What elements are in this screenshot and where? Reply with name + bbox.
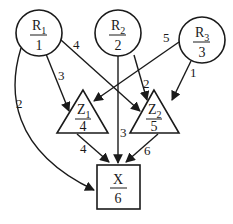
edge-r3-z2 bbox=[172, 61, 191, 100]
edge-label-z2-x: 6 bbox=[144, 143, 151, 158]
node-r3: R3 3 bbox=[179, 17, 225, 63]
node-r3-value: 3 bbox=[199, 45, 206, 60]
edge-label-r3-z1: 5 bbox=[163, 30, 170, 45]
edge-label-r1-x: 2 bbox=[16, 96, 23, 111]
node-r1-value: 1 bbox=[36, 38, 43, 53]
node-r2: R2 2 bbox=[95, 10, 141, 56]
edge-label-r2-z2: 2 bbox=[143, 76, 150, 91]
node-r1: R1 1 bbox=[16, 10, 62, 56]
edge-label-r3-z2: 1 bbox=[190, 65, 197, 80]
edge-z2-x bbox=[126, 134, 158, 162]
node-x: X 6 bbox=[97, 165, 140, 209]
edge-label-r1-z2: 4 bbox=[73, 37, 80, 52]
causal-diagram: 2 3 4 2 3 5 1 4 6 R1 1 R2 2 R3 3 Z1 4 bbox=[0, 0, 233, 224]
node-x-name: X bbox=[113, 172, 123, 187]
node-r2-value: 2 bbox=[115, 38, 122, 53]
edge-label-r1-z1: 3 bbox=[58, 68, 65, 83]
node-z2-value: 5 bbox=[151, 119, 158, 134]
node-z2: Z2 5 bbox=[130, 90, 179, 134]
node-x-value: 6 bbox=[115, 191, 122, 206]
edge-label-z1-x: 4 bbox=[80, 141, 87, 156]
edge-label-r2-x: 3 bbox=[120, 125, 127, 140]
node-z1-value: 4 bbox=[80, 119, 87, 134]
